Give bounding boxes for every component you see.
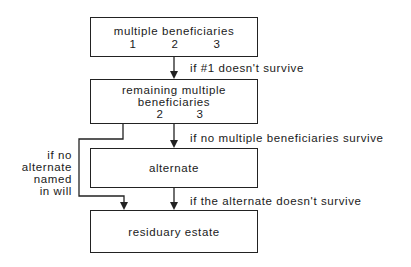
edge-label-1-doesnt-survive: if #1 doesn't survive <box>190 62 304 74</box>
edge-label-no-multiple-survive: if no multiple beneficiaries survive <box>190 132 384 144</box>
residuary-estate-box: residuary estate <box>90 210 258 253</box>
remaining-title-line1: remaining multiple <box>122 84 226 96</box>
remaining-number-2: 2 <box>140 108 180 120</box>
no-alternate-line3: named <box>14 173 72 185</box>
arrowhead-2 <box>170 140 178 148</box>
beneficiary-number-1: 1 <box>113 38 153 50</box>
multiple-beneficiaries-title: multiple beneficiaries <box>114 25 235 37</box>
arrowhead-3 <box>170 202 178 210</box>
beneficiary-number-2: 2 <box>153 38 197 50</box>
residuary-estate-title: residuary estate <box>128 226 219 238</box>
remaining-beneficiaries-box: remaining multiple beneficiaries 2 3 <box>90 79 258 124</box>
remaining-number-3: 3 <box>180 108 220 120</box>
remaining-numbers: 2 3 <box>85 108 263 120</box>
arrowhead-1 <box>170 71 178 79</box>
no-alternate-line1: if no <box>14 149 72 161</box>
alternate-title: alternate <box>149 162 199 174</box>
arrowhead-bypass <box>120 202 128 210</box>
beneficiary-numbers: 1 2 3 <box>90 38 258 50</box>
edge-label-alternate-doesnt-survive: if the alternate doesn't survive <box>190 195 362 207</box>
remaining-title-line2: beneficiaries <box>138 96 210 108</box>
edge-label-no-alternate-named: if no alternate named in will <box>14 149 72 197</box>
beneficiary-number-3: 3 <box>197 38 237 50</box>
multiple-beneficiaries-box: multiple beneficiaries 1 2 3 <box>90 17 258 57</box>
no-alternate-line4: in will <box>14 185 72 197</box>
no-alternate-line2: alternate <box>14 161 72 173</box>
alternate-box: alternate <box>90 148 258 188</box>
